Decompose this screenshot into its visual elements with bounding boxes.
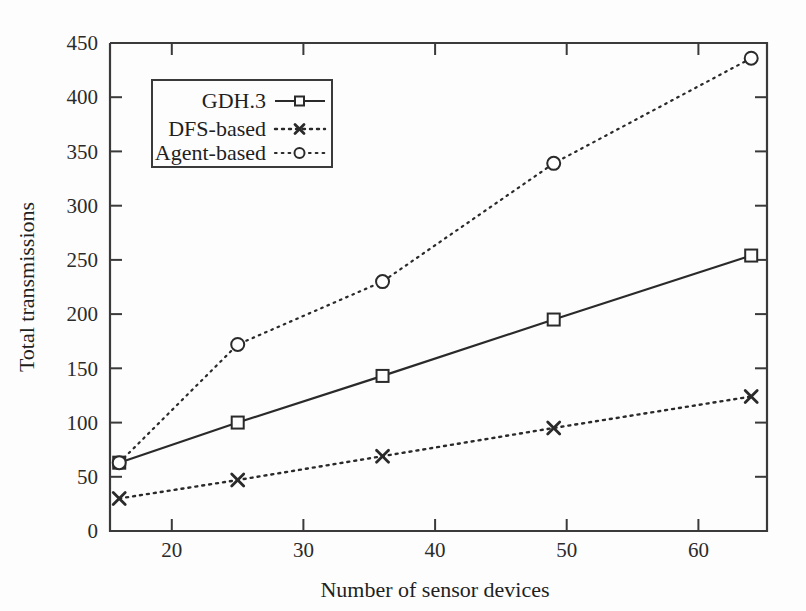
legend-label-gdh3: GDH.3 bbox=[202, 88, 266, 113]
chart-page: 0 50 100 150 200 250 300 350 400 450 bbox=[0, 0, 806, 611]
y-tick-label-50: 50 bbox=[77, 465, 98, 489]
y-tick-label-0: 0 bbox=[88, 519, 99, 543]
series-path bbox=[119, 256, 751, 463]
x-axis-title: Number of sensor devices bbox=[320, 577, 549, 602]
x-tick-label-50: 50 bbox=[556, 538, 577, 562]
y-tick-label-400: 400 bbox=[67, 85, 99, 109]
y-tick-label-300: 300 bbox=[67, 194, 99, 218]
data-point-marker-square bbox=[548, 314, 560, 326]
legend-marker-square-icon bbox=[295, 97, 304, 106]
x-tick-label-20: 20 bbox=[161, 538, 182, 562]
line-chart: 0 50 100 150 200 250 300 350 400 450 bbox=[0, 0, 806, 611]
legend-label-dfs-based: DFS-based bbox=[168, 116, 266, 141]
data-point-marker-circle bbox=[547, 157, 560, 170]
y-tick-label-100: 100 bbox=[67, 411, 99, 435]
x-tick-label-30: 30 bbox=[293, 538, 314, 562]
data-point-marker-circle bbox=[745, 52, 758, 65]
series-path bbox=[119, 397, 751, 499]
y-axis-tick-labels: 0 50 100 150 200 250 300 350 400 450 bbox=[67, 31, 99, 543]
data-point-marker-square bbox=[377, 370, 389, 382]
legend-marker-circle-icon bbox=[295, 148, 305, 158]
y-tick-label-350: 350 bbox=[67, 140, 99, 164]
y-tick-label-250: 250 bbox=[67, 248, 99, 272]
legend-label-agent-based: Agent-based bbox=[155, 140, 266, 165]
data-point-marker-square bbox=[232, 417, 244, 429]
y-tick-label-150: 150 bbox=[67, 357, 99, 381]
data-point-marker-circle bbox=[376, 275, 389, 288]
x-axis-tick-labels: 20 30 40 50 60 bbox=[161, 538, 709, 562]
y-axis-title: Total transmissions bbox=[14, 202, 39, 372]
x-tick-label-60: 60 bbox=[688, 538, 709, 562]
data-point-marker-circle bbox=[231, 338, 244, 351]
data-point-marker-circle bbox=[113, 456, 126, 469]
series-gdh-3 bbox=[113, 250, 757, 469]
y-tick-label-450: 450 bbox=[67, 31, 99, 55]
data-point-marker-square bbox=[745, 250, 757, 262]
x-tick-label-40: 40 bbox=[425, 538, 446, 562]
legend: GDH.3 DFS-based Agent-based bbox=[152, 80, 332, 167]
y-tick-label-200: 200 bbox=[67, 302, 99, 326]
series-dfs-based bbox=[113, 391, 757, 505]
